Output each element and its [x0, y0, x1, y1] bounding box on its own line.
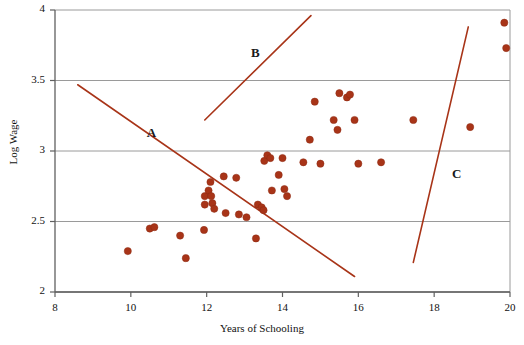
data-point [243, 214, 250, 221]
y-tick-label: 4 [0, 2, 45, 14]
plot-canvas [0, 0, 524, 345]
trend-lines-group [78, 16, 469, 277]
data-point [252, 235, 259, 242]
trend-line-label-B: B [251, 45, 260, 61]
x-tick-label: 20 [490, 301, 524, 313]
trend-line-C [413, 27, 468, 262]
data-point [300, 159, 307, 166]
data-point [275, 171, 282, 178]
data-point [281, 185, 288, 192]
data-point [201, 201, 208, 208]
trend-line-B [205, 16, 311, 120]
y-axis-title: Log Wage [7, 107, 19, 177]
data-point [211, 205, 218, 212]
data-point [177, 232, 184, 239]
x-tick-label: 14 [263, 301, 303, 313]
data-point [200, 226, 207, 233]
data-point [208, 193, 215, 200]
data-point [311, 98, 318, 105]
data-point [306, 136, 313, 143]
data-point [346, 91, 353, 98]
data-point [220, 173, 227, 180]
data-point [503, 44, 510, 51]
x-tick-label: 18 [414, 301, 454, 313]
x-axis-title: Years of Schooling [0, 322, 524, 334]
tick-marks-group [50, 10, 510, 297]
x-tick-label: 16 [338, 301, 378, 313]
data-point [467, 123, 474, 130]
y-tick-label: 3.5 [0, 73, 45, 85]
y-tick-label: 2.5 [0, 214, 45, 226]
data-point [267, 154, 274, 161]
scatter-plot-chart: 22.533.548101214161820 ABC Years of Scho… [0, 0, 524, 345]
x-tick-label: 12 [187, 301, 227, 313]
data-point [235, 211, 242, 218]
y-tick-label: 2 [0, 284, 45, 296]
data-point [124, 248, 131, 255]
trend-line-A [78, 85, 355, 277]
data-point [330, 116, 337, 123]
data-point [334, 126, 341, 133]
data-point [207, 178, 214, 185]
data-point [279, 154, 286, 161]
data-point [151, 224, 158, 231]
data-point [283, 193, 290, 200]
x-tick-label: 8 [35, 301, 75, 313]
data-points-group [124, 19, 510, 262]
x-tick-label: 10 [111, 301, 151, 313]
data-point [351, 116, 358, 123]
data-point [336, 90, 343, 97]
data-point [182, 255, 189, 262]
data-point [355, 160, 362, 167]
data-point [233, 174, 240, 181]
data-point [410, 116, 417, 123]
data-point [501, 19, 508, 26]
data-point [317, 160, 324, 167]
gridlines-group [55, 10, 510, 292]
trend-line-label-A: A [147, 125, 156, 141]
trend-line-label-C: C [452, 166, 461, 182]
data-point [222, 209, 229, 216]
data-point [268, 187, 275, 194]
data-point [377, 159, 384, 166]
data-point [260, 207, 267, 214]
